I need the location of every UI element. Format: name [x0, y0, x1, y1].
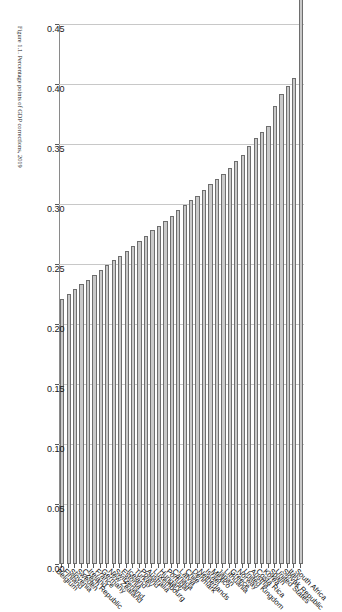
bar-row [286, 24, 290, 564]
bar-row [208, 24, 212, 564]
bar-row [299, 24, 303, 564]
bar-row [60, 24, 64, 564]
bar-row [215, 24, 219, 564]
bar [60, 299, 64, 564]
bar [118, 256, 122, 564]
x-axis-tick-label: 0.15 [47, 384, 65, 394]
bar [176, 210, 180, 564]
bar [234, 161, 238, 564]
bar-row [157, 24, 161, 564]
bar [221, 174, 225, 564]
bar-row [241, 24, 245, 564]
bar-row [254, 24, 258, 564]
bar [241, 155, 245, 564]
bar [286, 86, 290, 564]
bar [183, 205, 187, 564]
x-axis-tick-label: 0.30 [47, 204, 65, 214]
bar-row [67, 24, 71, 564]
x-axis-tick-label: 0.20 [47, 324, 65, 334]
bar-row [176, 24, 180, 564]
bar [228, 168, 232, 564]
bar [73, 289, 77, 564]
bar [279, 94, 283, 564]
bar [208, 184, 212, 564]
bar-row [73, 24, 77, 564]
bar-row [86, 24, 90, 564]
bar-row [228, 24, 232, 564]
bar-row [99, 24, 103, 564]
bar [196, 196, 200, 564]
bar-row [221, 24, 225, 564]
bar-row [279, 24, 283, 564]
bar [215, 179, 219, 564]
bar [86, 280, 90, 564]
bar-row [144, 24, 148, 564]
bar [247, 146, 251, 564]
bar [273, 106, 277, 564]
bar [266, 126, 270, 564]
bar-row [196, 24, 200, 564]
bar-row [292, 24, 296, 564]
bar [292, 78, 296, 564]
x-axis-tick-label: 0.40 [47, 84, 65, 94]
bar [79, 284, 83, 564]
bar-row [273, 24, 277, 564]
x-axis-tick-label: 0.25 [47, 264, 65, 274]
bar-row [131, 24, 135, 564]
bar-row [183, 24, 187, 564]
bar [125, 251, 129, 564]
bar-row [105, 24, 109, 564]
bar [299, 0, 303, 564]
bar-row [189, 24, 193, 564]
bar-row [266, 24, 270, 564]
bar [157, 226, 161, 564]
bar-row [163, 24, 167, 564]
bar [144, 236, 148, 564]
bar [99, 270, 103, 564]
bar-row [137, 24, 141, 564]
bar [170, 216, 174, 564]
bar [254, 138, 258, 564]
bar-row [234, 24, 238, 564]
bar-row [150, 24, 154, 564]
bar-row [247, 24, 251, 564]
bar [150, 230, 154, 564]
x-axis-tick-label: 0.45 [47, 24, 65, 34]
bar [112, 260, 116, 564]
bar [92, 275, 96, 564]
x-axis-tick-label: 0.10 [47, 444, 65, 454]
bar [137, 241, 141, 564]
x-axis-tick-label: 0.05 [47, 504, 65, 514]
bar-row [170, 24, 174, 564]
bar [260, 132, 264, 564]
bar [163, 221, 167, 564]
bar-row [79, 24, 83, 564]
bar [67, 294, 71, 564]
bar-row [125, 24, 129, 564]
bar-row [202, 24, 206, 564]
x-axis-tick-label: 0.35 [47, 144, 65, 154]
bar [105, 265, 109, 564]
bar-row [118, 24, 122, 564]
bar [131, 246, 135, 564]
bar-row [260, 24, 264, 564]
bar [202, 190, 206, 564]
bar [189, 200, 193, 564]
bar-row [112, 24, 116, 564]
plot-area: 0.450.400.350.300.250.200.150.100.050.00… [59, 24, 304, 564]
bar-row [92, 24, 96, 564]
figure-caption: Figure 1.1. Percentage points of GDP cor… [17, 26, 24, 168]
